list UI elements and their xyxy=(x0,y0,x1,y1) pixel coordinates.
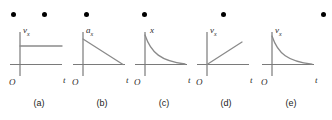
graph-panel-c: x O t (c) xyxy=(131,24,197,120)
x-axis-label: t xyxy=(315,76,318,85)
x-axis-label: t xyxy=(63,76,66,85)
graph-panel-d: vx O t (d) xyxy=(193,24,259,120)
data-curve xyxy=(83,39,123,65)
x-axis-label: t xyxy=(188,76,191,85)
y-axis-label: vx xyxy=(210,26,217,37)
y-axis-label: ax xyxy=(86,26,93,37)
panel-caption-e: (e) xyxy=(258,98,324,108)
bullet-4 xyxy=(142,12,147,17)
x-axis-label: t xyxy=(250,76,253,85)
bullet-3 xyxy=(84,12,89,17)
data-curve xyxy=(145,35,185,64)
bullet-6 xyxy=(321,12,326,17)
y-axis-label: vx xyxy=(23,26,30,37)
origin-label: O xyxy=(134,78,141,87)
origin-label: O xyxy=(72,78,79,87)
origin-label: O xyxy=(196,78,203,87)
panel-caption-b: (b) xyxy=(69,98,135,108)
graph-panel-e: vx O t (e) xyxy=(258,24,324,120)
graph-panel-a: vx O t (a) xyxy=(6,24,72,120)
graph-panels: vx O t (a) ax O t (b) x O xyxy=(0,24,332,120)
y-axis-label: x xyxy=(150,26,154,37)
data-curve xyxy=(207,42,242,65)
x-axis-label: t xyxy=(126,76,129,85)
origin-label: O xyxy=(9,78,16,87)
bullet-marker-row xyxy=(0,0,332,26)
panel-caption-a: (a) xyxy=(6,98,72,108)
y-axis-label: vx xyxy=(275,26,282,37)
bullet-1 xyxy=(11,12,16,17)
data-curve xyxy=(272,36,312,64)
bullet-2 xyxy=(42,12,47,17)
panel-caption-c: (c) xyxy=(131,98,197,108)
panel-caption-d: (d) xyxy=(193,98,259,108)
physics-graph-figure: vx O t (a) ax O t (b) x O xyxy=(0,0,332,120)
bullet-5 xyxy=(221,12,226,17)
origin-label: O xyxy=(261,78,268,87)
graph-panel-b: ax O t (b) xyxy=(69,24,135,120)
